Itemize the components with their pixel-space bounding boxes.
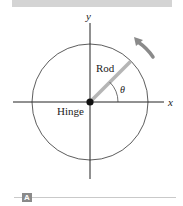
rod-label: Rod [96,63,114,74]
hinge-label: Hinge [57,106,84,117]
rotating-rod-diagram [0,0,183,206]
hinge-pivot [86,98,93,105]
rotation-arrow-icon [134,37,153,57]
angle-theta-label: θ [120,85,125,95]
y-axis-label: y [86,11,91,22]
angle-arc [110,82,118,102]
x-axis-label: x [168,97,173,108]
figure-divider [14,197,176,198]
figure-tag: A [22,193,32,202]
